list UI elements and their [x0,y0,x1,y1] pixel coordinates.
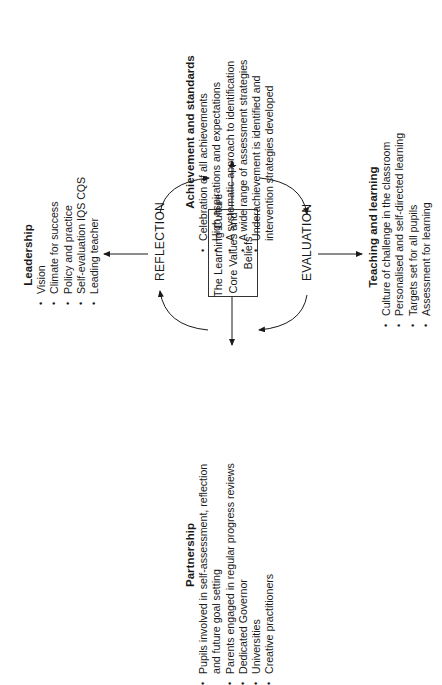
curve-bottom-to-reflection [160,291,208,330]
evaluation-label: EVALUATION [300,204,314,281]
list-item: Personalised and self-directed learning [393,127,406,327]
list-item: A wide range of assessment strategies [237,12,250,252]
teaching-section: Teaching and learning Culture of challen… [366,127,433,327]
list-item: Leading teacher [88,205,101,305]
partnership-list: Pupils involved in self-assessment, refl… [197,425,277,685]
teaching-list: Culture of challenge in the classroom Pe… [380,127,433,327]
leadership-list: Vision Climate for success Policy and pr… [35,205,101,305]
list-item: Targets set for all pupils [407,127,420,327]
leadership-title: Leadership [21,205,35,305]
list-item: Policy and practice [62,205,75,305]
curve-evaluation-to-bottom [259,295,307,330]
list-item: Universities [250,425,263,685]
list-item: Self-evaluation IQS CQS [75,205,88,305]
list-item: Underachievement is identified and [250,12,263,252]
list-item-continuation: intervention strategies developed [263,12,276,252]
partnership-title: Partnership [183,425,197,685]
list-item: Assessment for learning [420,127,433,327]
list-item: Celebration of all achievements [197,12,210,252]
achievement-title: Achievement and standards [183,12,197,252]
list-item: Vision [35,205,48,305]
list-item: High aspirations and expectations [210,12,223,252]
achievement-section: Achievement and standards Celebration of… [183,12,277,252]
list-item: Dedicated Governor [237,425,250,685]
list-item: Pupils involved in self-assessment, refl… [197,425,210,685]
list-item: Creative practitioners [263,425,276,685]
teaching-title: Teaching and learning [366,127,380,327]
list-item: A systematic approach to identification [224,12,237,252]
list-item: Culture of challenge in the classroom [380,127,393,327]
achievement-list: Celebration of all achievements High asp… [197,12,277,252]
partnership-section: Partnership Pupils involved in self-asse… [183,425,277,685]
leadership-section: Leadership Vision Climate for success Po… [21,205,101,305]
list-item: Parents engaged in regular progress revi… [224,425,237,685]
reflection-label: REFLECTION [153,202,167,281]
list-item-continuation: and future goal setting [210,425,223,685]
list-item: Climate for success [48,205,61,305]
